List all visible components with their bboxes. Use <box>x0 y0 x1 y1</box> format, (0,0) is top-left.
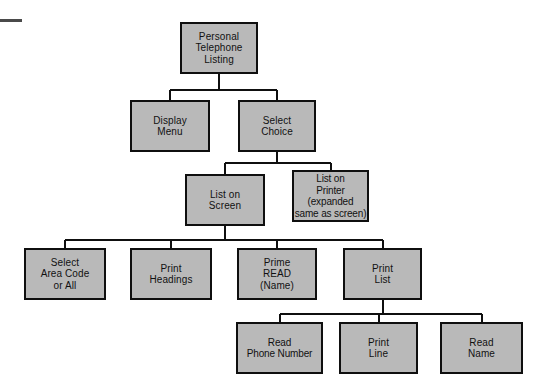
node-list-on-screen[interactable]: List on Screen <box>185 174 265 226</box>
node-label: Read Name <box>442 337 521 360</box>
node-list-on-printer[interactable]: List on Printer (expanded same as screen… <box>292 170 369 222</box>
node-label: Prime READ (Name) <box>239 257 315 292</box>
node-label: Personal Telephone Listing <box>182 31 256 66</box>
node-label: Display Menu <box>132 115 208 138</box>
structure-chart: Personal Telephone Listing Display Menu … <box>0 0 543 392</box>
node-print-headings[interactable]: Print Headings <box>130 248 212 300</box>
node-select-area-code-or-all[interactable]: Select Area Code or All <box>24 248 106 300</box>
node-label: Print Headings <box>132 263 210 286</box>
node-label: Print Line <box>341 337 416 360</box>
node-personal-telephone-listing[interactable]: Personal Telephone Listing <box>180 22 258 74</box>
node-label: List on Screen <box>187 189 263 212</box>
node-read-phone-number[interactable]: Read Phone Number <box>236 322 323 374</box>
node-label: Select Area Code or All <box>26 257 104 292</box>
node-read-name[interactable]: Read Name <box>440 322 523 374</box>
node-label: Print List <box>345 263 420 286</box>
node-label: Select Choice <box>240 115 314 138</box>
node-display-menu[interactable]: Display Menu <box>130 100 210 152</box>
node-label: List on Printer (expanded same as screen… <box>294 173 367 219</box>
node-label: Read Phone Number <box>238 337 321 360</box>
node-select-choice[interactable]: Select Choice <box>238 100 316 152</box>
page-corner-rule <box>0 19 22 22</box>
node-prime-read-name[interactable]: Prime READ (Name) <box>237 248 317 300</box>
node-print-list[interactable]: Print List <box>343 248 422 300</box>
node-print-line[interactable]: Print Line <box>339 322 418 374</box>
